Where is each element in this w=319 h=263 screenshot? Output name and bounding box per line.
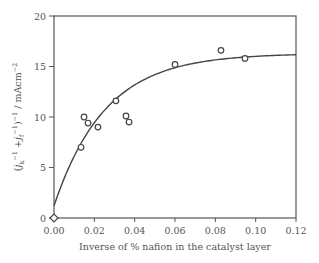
svg-text:(jk−1 +jf−1)−1 / mAcm−2: (jk−1 +jf−1)−1 / mAcm−2 xyxy=(11,63,26,172)
data-point xyxy=(85,120,91,126)
x-tick-label: 0.10 xyxy=(245,225,266,236)
x-tick-label: 0.00 xyxy=(43,225,64,236)
data-point xyxy=(78,145,84,151)
data-point xyxy=(126,119,132,125)
x-tick-label: 0.08 xyxy=(205,225,226,236)
data-point xyxy=(113,98,119,104)
data-point xyxy=(123,113,129,119)
y-tick-label: 15 xyxy=(34,61,46,72)
x-tick-label: 0.12 xyxy=(285,225,306,236)
data-point xyxy=(172,62,178,68)
x-axis-ticks: 0.000.020.040.060.080.100.12 xyxy=(43,218,306,236)
x-tick-label: 0.02 xyxy=(84,225,105,236)
x-tick-label: 0.04 xyxy=(124,225,145,236)
chart: 0.000.020.040.060.080.100.12 05101520 In… xyxy=(0,0,319,263)
x-tick-label: 0.06 xyxy=(164,225,185,236)
data-point xyxy=(218,48,224,54)
plot-frame xyxy=(54,16,296,218)
y-axis-label: (jk−1 +jf−1)−1 / mAcm−2 xyxy=(11,63,26,172)
y-tick-label: 10 xyxy=(34,112,46,123)
y-axis-ticks: 05101520 xyxy=(34,11,54,224)
y-tick-label: 5 xyxy=(40,162,46,173)
y-tick-label: 20 xyxy=(34,11,46,22)
data-point xyxy=(242,56,248,62)
data-point xyxy=(81,114,87,120)
origin-marker xyxy=(50,214,58,222)
y-tick-label: 0 xyxy=(40,213,46,224)
fit-curve xyxy=(54,55,296,206)
data-points xyxy=(50,48,248,222)
x-axis-label: Inverse of % nafion in the catalyst laye… xyxy=(79,241,271,252)
data-point xyxy=(95,124,101,130)
